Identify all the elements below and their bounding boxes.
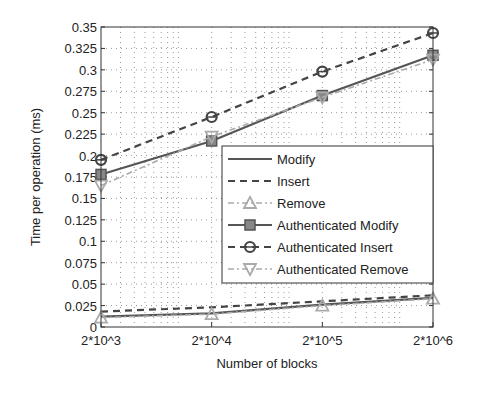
legend: ModifyInsertRemoveAuthenticated ModifyAu… — [222, 146, 433, 283]
legend-label: Authenticated Modify — [277, 218, 399, 233]
legend-label: Remove — [277, 196, 325, 211]
legend-label: Authenticated Remove — [277, 262, 409, 277]
y-tick-label: 0.2 — [79, 149, 97, 164]
y-tick-label: 0.325 — [64, 41, 97, 56]
legend-label: Modify — [277, 152, 316, 167]
y-tick-label: 0.25 — [72, 106, 97, 121]
x-tick-label: 2*10^4 — [192, 333, 232, 348]
legend-label: Insert — [277, 174, 310, 189]
line-chart: 00.0250.050.0750.10.1250.150.1750.20.225… — [0, 0, 485, 396]
y-tick-label: 0.225 — [64, 127, 97, 142]
x-axis-label: Number of blocks — [216, 356, 318, 371]
x-tick-label: 2*10^5 — [302, 333, 342, 348]
y-tick-label: 0.075 — [64, 256, 97, 271]
y-tick-label: 0.125 — [64, 213, 97, 228]
square-marker — [245, 220, 255, 230]
y-tick-label: 0.175 — [64, 170, 97, 185]
series-modify — [101, 298, 433, 317]
x-axis-ticks: 2*10^32*10^42*10^52*10^6 — [81, 322, 453, 348]
y-axis-label: Time per operation (ms) — [28, 108, 43, 246]
y-tick-label: 0.35 — [72, 20, 97, 35]
x-tick-label: 2*10^3 — [81, 333, 121, 348]
y-tick-label: 0.275 — [64, 84, 97, 99]
y-tick-label: 0.3 — [79, 63, 97, 78]
y-tick-label: 0.15 — [72, 191, 97, 206]
y-tick-label: 0.1 — [79, 234, 97, 249]
y-tick-label: 0.025 — [64, 299, 97, 314]
y-tick-label: 0.05 — [72, 277, 97, 292]
legend-label: Authenticated Insert — [277, 240, 393, 255]
x-tick-label: 2*10^6 — [413, 333, 453, 348]
series-remove — [95, 293, 439, 323]
legend-item: Authenticated Modify — [228, 218, 399, 233]
